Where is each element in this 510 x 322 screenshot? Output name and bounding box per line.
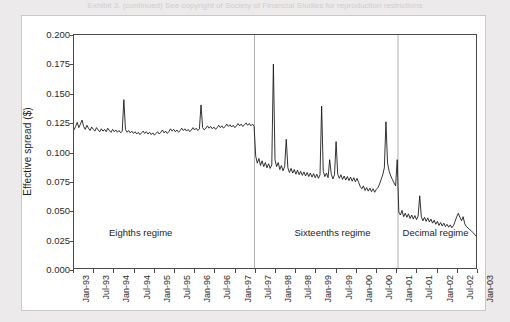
x-tick-label: Jul-95 bbox=[182, 275, 192, 300]
y-tick-mark bbox=[70, 35, 74, 36]
x-tick-label: Jul-98 bbox=[303, 275, 313, 300]
x-tick-label: Jan-93 bbox=[81, 275, 91, 303]
regime-annotation: Decimal regime bbox=[403, 227, 469, 238]
x-tick-label: Jul-97 bbox=[263, 275, 273, 300]
y-tick-label: 0.175 bbox=[46, 58, 70, 69]
x-tick-mark bbox=[457, 269, 458, 273]
x-tick-label: Jul-02 bbox=[465, 275, 475, 300]
x-tick-label: Jul-93 bbox=[101, 275, 111, 300]
series-path bbox=[74, 64, 476, 236]
x-tick-label: Jan-01 bbox=[404, 275, 414, 303]
x-tick-label: Jan-94 bbox=[121, 275, 131, 303]
x-tick-label: Jan-95 bbox=[162, 275, 172, 303]
y-tick-label: 0.200 bbox=[46, 29, 70, 40]
x-tick-mark bbox=[477, 269, 478, 273]
x-tick-mark bbox=[93, 269, 94, 273]
x-tick-label: Jul-96 bbox=[222, 275, 232, 300]
x-tick-mark bbox=[134, 269, 135, 273]
plot-area: Eighths regimeSixteenths regimeDecimal r… bbox=[73, 34, 477, 269]
x-tick-mark bbox=[336, 269, 337, 273]
x-tick-label: Jan-03 bbox=[485, 275, 495, 303]
figure-page: Exhibit 3. (continued) See copyright of … bbox=[0, 0, 510, 322]
x-tick-mark bbox=[73, 269, 74, 273]
x-tick-label: Jul-94 bbox=[142, 275, 152, 300]
x-tick-label: Jan-98 bbox=[283, 275, 293, 303]
y-tick-mark bbox=[70, 94, 74, 95]
y-tick-mark bbox=[70, 241, 74, 242]
x-tick-mark bbox=[376, 269, 377, 273]
y-tick-label: 0.000 bbox=[46, 264, 70, 275]
y-tick-mark bbox=[70, 153, 74, 154]
x-tick-mark bbox=[194, 269, 195, 273]
x-tick-mark bbox=[356, 269, 357, 273]
x-tick-mark bbox=[275, 269, 276, 273]
y-tick-label: 0.025 bbox=[46, 234, 70, 245]
regime-annotation: Sixteenths regime bbox=[295, 227, 371, 238]
x-tick-mark bbox=[113, 269, 114, 273]
x-tick-label: Jan-02 bbox=[445, 275, 455, 303]
y-tick-label: 0.150 bbox=[46, 87, 70, 98]
y-tick-mark bbox=[70, 182, 74, 183]
y-tick-label: 0.100 bbox=[46, 146, 70, 157]
x-tick-label: Jul-01 bbox=[424, 275, 434, 300]
x-tick-mark bbox=[235, 269, 236, 273]
x-tick-mark bbox=[315, 269, 316, 273]
y-tick-label: 0.125 bbox=[46, 117, 70, 128]
x-tick-mark bbox=[295, 269, 296, 273]
x-tick-label: Jul-00 bbox=[384, 275, 394, 300]
y-tick-mark bbox=[70, 64, 74, 65]
x-tick-mark bbox=[255, 269, 256, 273]
x-axis-ticks: Jan-93Jul-93Jan-94Jul-94Jan-95Jul-95Jan-… bbox=[73, 269, 477, 322]
regime-annotation: Eighths regime bbox=[109, 227, 172, 238]
y-tick-mark bbox=[70, 123, 74, 124]
x-tick-label: Jan-97 bbox=[243, 275, 253, 303]
x-tick-mark bbox=[437, 269, 438, 273]
x-tick-mark bbox=[416, 269, 417, 273]
page-caption: Exhibit 3. (continued) See copyright of … bbox=[0, 0, 510, 11]
y-tick-label: 0.075 bbox=[46, 175, 70, 186]
y-axis-ticks: 0.0000.0250.0500.0750.1000.1250.1500.175… bbox=[22, 34, 70, 269]
y-tick-mark bbox=[70, 211, 74, 212]
x-tick-mark bbox=[174, 269, 175, 273]
x-tick-mark bbox=[396, 269, 397, 273]
x-tick-mark bbox=[214, 269, 215, 273]
figure-card: Effective spread ($) 0.0000.0250.0500.07… bbox=[21, 15, 486, 311]
y-tick-label: 0.050 bbox=[46, 205, 70, 216]
x-tick-label: Jan-96 bbox=[202, 275, 212, 303]
x-tick-label: Jan-00 bbox=[364, 275, 374, 303]
x-tick-mark bbox=[154, 269, 155, 273]
x-tick-label: Jan-99 bbox=[323, 275, 333, 303]
x-tick-label: Jul-99 bbox=[344, 275, 354, 300]
